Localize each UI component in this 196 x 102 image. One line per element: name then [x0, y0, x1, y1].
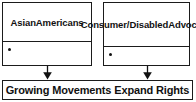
- category-header-line-3: Advocacy: [168, 19, 196, 30]
- list-item: [8, 47, 91, 51]
- category-box-consumer-disabled-advocacy: Consumer/ Disabled Advocacy: [103, 2, 190, 66]
- category-body-consumer-disabled-advocacy: [104, 47, 189, 65]
- category-box-asian-americans: Asian Americans: [2, 2, 92, 66]
- category-header-line-1: Consumer/: [81, 19, 130, 30]
- outcome-box: Growing Movements Expand Rights: [2, 80, 193, 100]
- category-header-consumer-disabled-advocacy: Consumer/ Disabled Advocacy: [104, 3, 189, 47]
- category-header-line-2: Disabled: [129, 19, 168, 30]
- category-body-asian-americans: [3, 42, 91, 65]
- flowchart-diagram: Asian Americans Consumer/ Disabled Advoc…: [0, 0, 196, 102]
- bullet-icon: [8, 48, 11, 51]
- category-header-line-2: Americans: [36, 17, 84, 28]
- category-header-asian-americans: Asian Americans: [3, 3, 91, 42]
- bullet-icon: [109, 53, 112, 56]
- outcome-label: Growing Movements Expand Rights: [6, 84, 190, 96]
- category-header-line-1: Asian: [10, 17, 35, 28]
- down-arrow-icon: [142, 66, 153, 80]
- list-item: [109, 52, 189, 56]
- down-arrow-icon: [42, 66, 53, 80]
